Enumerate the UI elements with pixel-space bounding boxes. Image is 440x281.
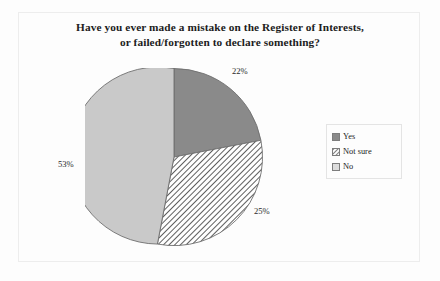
legend-label-not-sure: Not sure xyxy=(343,147,372,156)
legend-item-yes[interactable]: Yes xyxy=(332,129,401,144)
pie-label-no: 53% xyxy=(58,159,74,169)
pie-chart-svg xyxy=(85,68,263,246)
legend-item-not-sure[interactable]: Not sure xyxy=(332,144,401,159)
legend-swatch-not-sure-icon xyxy=(332,148,340,156)
chart-title-line-1: Have you ever made a mistake on the Regi… xyxy=(30,20,410,35)
chart-legend: Yes Not sure No xyxy=(326,124,402,179)
chart-title-line-2: or failed/forgotten to declare something… xyxy=(30,35,410,50)
legend-item-no[interactable]: No xyxy=(332,159,401,174)
pie-label-yes: 22% xyxy=(232,66,248,76)
legend-swatch-no-icon xyxy=(332,163,340,171)
pie-slice-no[interactable] xyxy=(85,68,174,244)
pie-chart xyxy=(85,68,263,246)
legend-label-yes: Yes xyxy=(343,132,355,141)
legend-swatch-yes-icon xyxy=(332,133,340,141)
legend-hatch-icon xyxy=(333,149,339,155)
chart-title: Have you ever made a mistake on the Regi… xyxy=(30,20,410,49)
pie-label-not-sure: 25% xyxy=(254,206,270,216)
legend-label-no: No xyxy=(343,162,353,171)
figure-container: Have you ever made a mistake on the Regi… xyxy=(0,0,440,281)
